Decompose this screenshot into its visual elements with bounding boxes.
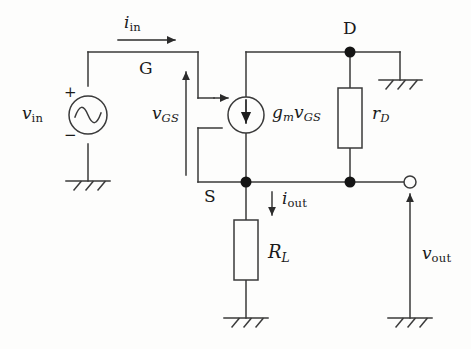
output-terminal-symbol[interactable] (404, 176, 416, 188)
drain-resistor-label: rD (372, 105, 390, 125)
source-lower-stub (198, 128, 246, 182)
dependent-current-source-symbol (228, 97, 264, 133)
drain-terminal-label: D (343, 20, 357, 37)
load-resistor-symbol (234, 220, 258, 280)
source-terminal-label: S (204, 188, 216, 205)
source-minus-sign: − (64, 128, 77, 143)
input-voltage-label: vin (22, 105, 43, 125)
input-ground-symbol (66, 181, 110, 190)
source-node-dot (241, 177, 252, 188)
load-ground-symbol (224, 318, 268, 327)
output-junction-dot (345, 177, 356, 188)
drain-node-dot (345, 47, 356, 58)
output-voltage-label: vout (422, 245, 451, 265)
output-ground-symbol (388, 318, 432, 327)
gate-terminal-label: G (139, 60, 153, 77)
source-plus-sign: + (64, 85, 77, 100)
gate-source-voltage-label: vGS (152, 105, 179, 125)
dependent-source-label: gmvGS (272, 104, 321, 124)
drain-ground-symbol (379, 80, 422, 89)
output-current-label: iout (282, 190, 307, 210)
circuit-diagram-figure: vin + − iin G vGS gmvGS D rD S iout RL v… (0, 0, 471, 349)
load-resistor-label: RL (268, 243, 290, 264)
input-current-label: iin (124, 14, 141, 34)
schematic-svg (0, 0, 471, 349)
drain-resistor-symbol (338, 88, 362, 148)
